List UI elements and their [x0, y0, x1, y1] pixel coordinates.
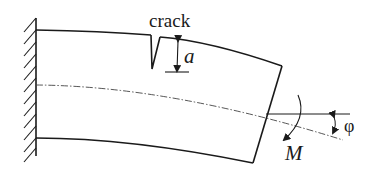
beam-top-edge	[36, 30, 151, 35]
applied-moment-arrow	[284, 95, 301, 140]
crack-label: crack	[149, 10, 191, 31]
crack-depth-label: a	[184, 44, 195, 68]
fixed-wall-support	[24, 18, 36, 162]
neutral-axis-centerline	[36, 85, 343, 140]
beam-bottom-edge	[36, 138, 253, 163]
cracked-cantilever-diagram: crack a M φ	[0, 0, 376, 171]
moment-label: M	[284, 141, 304, 165]
crack-notch	[151, 35, 160, 69]
rotation-angle-label: φ	[344, 116, 354, 136]
rotation-angle-arrow	[333, 117, 335, 133]
